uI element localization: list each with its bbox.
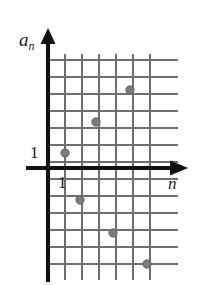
data-point[interactable] (126, 86, 134, 94)
data-point[interactable] (76, 196, 84, 204)
data-point[interactable] (92, 118, 100, 126)
x-axis-label: n (168, 175, 177, 192)
sequence-plot-figure: an n 1 1 (0, 0, 202, 285)
y-axis-label-base: a (19, 29, 29, 50)
x-axis-tick-label-1: 1 (58, 174, 67, 191)
y-axis-label-subscript: n (29, 39, 35, 53)
data-point[interactable] (143, 260, 151, 268)
data-point[interactable] (109, 229, 117, 237)
y-axis-label: an (19, 30, 35, 52)
data-point[interactable] (61, 149, 69, 157)
y-axis-tick-label-1: 1 (30, 144, 39, 161)
